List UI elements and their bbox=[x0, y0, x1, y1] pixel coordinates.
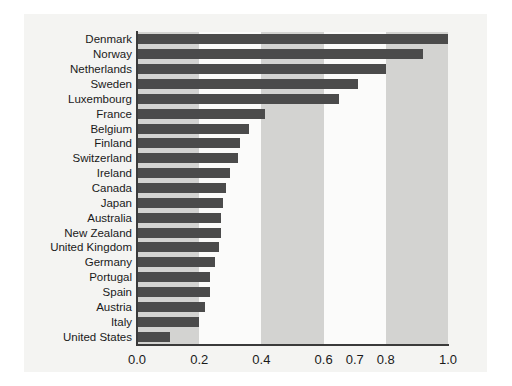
bar-fill bbox=[137, 183, 226, 193]
bar-fill bbox=[137, 242, 219, 252]
bar bbox=[137, 49, 423, 59]
bar-fill bbox=[137, 317, 199, 327]
x-tick-label: 0.4 bbox=[252, 352, 270, 367]
bar-fill bbox=[137, 257, 215, 267]
bar-fill bbox=[137, 287, 210, 297]
x-tick-label: 0.6 bbox=[315, 352, 333, 367]
plot-area bbox=[137, 32, 448, 344]
bar bbox=[137, 168, 230, 178]
category-label: Denmark bbox=[24, 33, 132, 45]
category-label: Sweden bbox=[24, 78, 132, 90]
bar bbox=[137, 213, 221, 223]
bar bbox=[137, 287, 210, 297]
bar-fill bbox=[137, 34, 448, 44]
bar bbox=[137, 242, 219, 252]
category-label: Belgium bbox=[24, 123, 132, 135]
bar-fill bbox=[137, 272, 210, 282]
category-label: United States bbox=[24, 331, 132, 343]
bar bbox=[137, 94, 339, 104]
category-label: France bbox=[24, 108, 132, 120]
bar bbox=[137, 109, 265, 119]
bar bbox=[137, 183, 226, 193]
bar-fill bbox=[137, 49, 423, 59]
bar bbox=[137, 257, 215, 267]
category-label: Norway bbox=[24, 48, 132, 60]
bar-series bbox=[137, 32, 448, 344]
bar-fill bbox=[137, 228, 221, 238]
category-label: New Zealand bbox=[24, 227, 132, 239]
bar bbox=[137, 79, 358, 89]
x-tick-label: 0.8 bbox=[377, 352, 395, 367]
category-label: Finland bbox=[24, 137, 132, 149]
category-axis-labels: DenmarkNorwayNetherlandsSwedenLuxembourg… bbox=[24, 32, 132, 344]
chart-screenshot: DenmarkNorwayNetherlandsSwedenLuxembourg… bbox=[0, 0, 512, 386]
bar bbox=[137, 198, 223, 208]
category-label: Japan bbox=[24, 197, 132, 209]
category-label: Australia bbox=[24, 212, 132, 224]
bar-fill bbox=[137, 94, 339, 104]
bar bbox=[137, 272, 210, 282]
x-tick-label: 1.0 bbox=[439, 352, 457, 367]
category-label: Ireland bbox=[24, 167, 132, 179]
bar-fill bbox=[137, 79, 358, 89]
category-label: Switzerland bbox=[24, 152, 132, 164]
bar-fill bbox=[137, 153, 238, 163]
x-tick-label: 0.2 bbox=[190, 352, 208, 367]
value-axis-tick-labels: 0.00.20.40.60.70.81.0 bbox=[0, 352, 512, 372]
category-label: Spain bbox=[24, 286, 132, 298]
x-tick-label: 0.7 bbox=[346, 352, 364, 367]
bar-fill bbox=[137, 168, 230, 178]
category-label: Germany bbox=[24, 256, 132, 268]
bar bbox=[137, 124, 249, 134]
bar bbox=[137, 153, 238, 163]
bar-fill bbox=[137, 124, 249, 134]
bar bbox=[137, 34, 448, 44]
bar-fill bbox=[137, 302, 205, 312]
category-label: United Kingdom bbox=[24, 241, 132, 253]
bar-fill bbox=[137, 332, 170, 342]
bar bbox=[137, 302, 205, 312]
bar-fill bbox=[137, 109, 265, 119]
category-label: Austria bbox=[24, 301, 132, 313]
category-label: Canada bbox=[24, 182, 132, 194]
bar bbox=[137, 332, 170, 342]
x-tick-label: 0.0 bbox=[128, 352, 146, 367]
category-label: Italy bbox=[24, 316, 132, 328]
bar bbox=[137, 228, 221, 238]
y-axis-line bbox=[136, 31, 138, 345]
category-label: Netherlands bbox=[24, 63, 132, 75]
bar-fill bbox=[137, 213, 221, 223]
bar bbox=[137, 138, 240, 148]
bar bbox=[137, 64, 386, 74]
bar-fill bbox=[137, 64, 386, 74]
bar-fill bbox=[137, 138, 240, 148]
bar-fill bbox=[137, 198, 223, 208]
bar bbox=[137, 317, 199, 327]
x-axis-line bbox=[136, 344, 449, 346]
category-label: Luxembourg bbox=[24, 93, 132, 105]
category-label: Portugal bbox=[24, 271, 132, 283]
